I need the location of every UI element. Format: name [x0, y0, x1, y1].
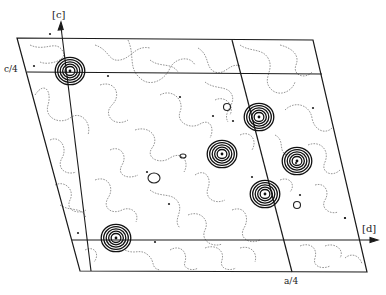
data-dot	[154, 241, 156, 243]
data-dot	[344, 217, 346, 219]
c-quarter-label: c/4	[4, 65, 18, 74]
a-quarter-label: a/4	[284, 277, 298, 286]
atom-peak	[55, 57, 85, 84]
data-dot	[295, 162, 297, 164]
a-axis-label: [d]	[362, 224, 376, 234]
data-dot	[179, 96, 181, 98]
c-axis-label: [c]	[52, 10, 65, 20]
density-map-svg	[0, 0, 386, 295]
atom-peak	[282, 147, 312, 174]
peak-center-dot	[69, 70, 72, 73]
atom-peak	[207, 140, 237, 167]
data-dot	[146, 171, 148, 173]
small-contour	[294, 202, 301, 209]
small-contour	[148, 173, 160, 183]
data-dot	[212, 115, 214, 117]
small-contour	[224, 104, 231, 111]
axis-arrows	[58, 22, 378, 271]
data-dot	[49, 33, 51, 35]
data-dot	[312, 107, 314, 109]
data-dot	[107, 75, 109, 77]
c-axis-arrowhead-icon	[58, 22, 63, 30]
data-dot	[232, 120, 234, 122]
a-axis-arrowhead-icon	[370, 238, 378, 243]
peak-center-dot	[264, 193, 267, 196]
atom-peak	[250, 180, 280, 207]
peak-center-dot	[115, 237, 118, 240]
data-dot	[33, 65, 35, 67]
data-dot	[168, 203, 170, 205]
data-dot	[251, 176, 253, 178]
atom-peak	[244, 103, 274, 130]
density-map-figure: [c] [d] c/4 a/4	[0, 0, 386, 295]
data-dot	[77, 232, 79, 234]
small-contour	[180, 154, 186, 158]
atom-peak	[101, 224, 131, 251]
data-dot	[299, 194, 301, 196]
unit-cell-lines	[17, 38, 367, 272]
c-quarter-line	[27, 72, 322, 74]
peak-center-dot	[258, 116, 261, 119]
peak-center-dot	[221, 153, 224, 156]
